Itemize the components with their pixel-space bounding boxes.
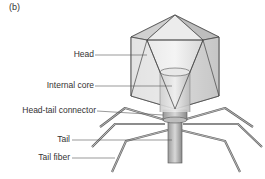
- internal-core: [160, 68, 190, 112]
- label-internal-core: Internal core: [47, 80, 94, 90]
- label-head-tail-connector: Head-tail connector: [22, 105, 96, 115]
- label-head: Head: [74, 49, 94, 59]
- label-tail-fiber: Tail fiber: [38, 152, 70, 162]
- tail: [168, 119, 182, 163]
- label-tail: Tail: [57, 134, 70, 144]
